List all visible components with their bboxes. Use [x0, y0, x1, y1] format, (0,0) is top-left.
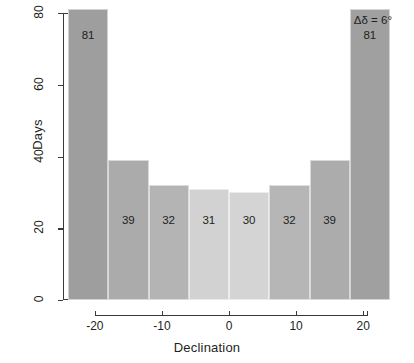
y-axis-tick: [58, 85, 63, 86]
x-axis-title: Declination: [0, 340, 414, 355]
x-axis-tick-label: -20: [75, 319, 115, 333]
bar-value-label: 39: [108, 214, 148, 226]
bar-value-label: 39: [310, 214, 350, 226]
histogram-bar: [350, 9, 390, 300]
delta-declination-annotation: Δδ = 6°: [354, 14, 392, 26]
bar-value-label: 32: [149, 214, 189, 226]
y-axis-tick-label: 20: [32, 212, 46, 242]
x-axis-line: [95, 311, 368, 316]
y-axis-tick: [58, 157, 63, 158]
x-axis-tick: [363, 311, 364, 316]
y-axis-line: [63, 13, 68, 300]
y-axis-tick-label: 60: [32, 69, 46, 99]
x-axis-tick-label: 0: [209, 319, 249, 333]
x-axis-tick: [296, 311, 297, 316]
y-axis-tick: [58, 228, 63, 229]
x-axis-tick: [95, 311, 96, 316]
y-axis-tick-label: 40: [32, 141, 46, 171]
histogram-bar: [189, 189, 229, 300]
x-axis-tick: [162, 311, 163, 316]
x-axis-tick-label: -10: [142, 319, 182, 333]
bar-value-label: 81: [68, 29, 108, 41]
histogram-bar: [269, 185, 309, 300]
histogram-bar: [108, 160, 148, 300]
x-axis-tick: [229, 311, 230, 316]
histogram-bar: [68, 9, 108, 300]
bar-value-label: 32: [269, 214, 309, 226]
bar-value-label: 30: [229, 214, 269, 226]
bar-value-label: 81: [350, 29, 390, 41]
y-axis-tick-label: 80: [32, 0, 46, 27]
y-axis-tick: [58, 13, 63, 14]
y-axis-tick-label: 0: [32, 284, 46, 314]
x-axis-tick-label: 20: [343, 319, 383, 333]
y-axis-tick: [58, 300, 63, 301]
x-axis-tick-label: 10: [276, 319, 316, 333]
histogram-bar: [229, 192, 269, 300]
bar-value-label: 31: [189, 214, 229, 226]
histogram-bar: [310, 160, 350, 300]
histogram-bar: [149, 185, 189, 300]
histogram-figure: Days 020406080 8139323130323981 -20-1001…: [0, 0, 414, 363]
